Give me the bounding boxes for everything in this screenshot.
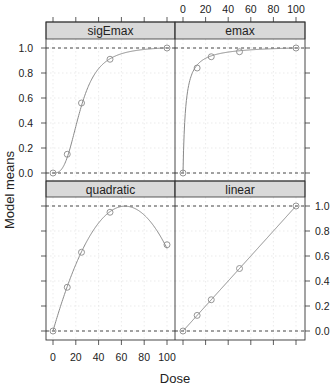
svg-text:0.6: 0.6 xyxy=(315,250,330,262)
svg-text:80: 80 xyxy=(268,3,280,15)
svg-text:0.2: 0.2 xyxy=(18,142,33,154)
panel-title-linear: linear xyxy=(225,183,254,197)
svg-text:20: 20 xyxy=(200,3,212,15)
svg-text:0: 0 xyxy=(50,351,56,363)
svg-text:0: 0 xyxy=(180,3,186,15)
svg-text:1.0: 1.0 xyxy=(315,200,330,212)
right-y-axis-labels: 1.0 0.8 0.6 0.4 0.2 0.0 xyxy=(315,200,330,337)
svg-text:40: 40 xyxy=(93,351,105,363)
x-axis-title: Dose xyxy=(160,371,190,386)
svg-text:0.2: 0.2 xyxy=(315,300,330,312)
bottom-x-axis-labels: 0 20 40 60 80 100 xyxy=(50,351,176,363)
svg-text:1.0: 1.0 xyxy=(18,42,33,54)
svg-text:100: 100 xyxy=(287,3,305,15)
panel-title-quadratic: quadratic xyxy=(86,183,135,197)
svg-text:0.8: 0.8 xyxy=(315,225,330,237)
panel-frames xyxy=(46,22,305,340)
top-x-axis-labels: 0 20 40 60 80 100 xyxy=(180,3,305,15)
svg-text:0.4: 0.4 xyxy=(315,275,330,287)
svg-text:0.8: 0.8 xyxy=(18,67,33,79)
svg-text:60: 60 xyxy=(245,3,257,15)
panel-title-emax: emax xyxy=(225,24,254,38)
svg-text:20: 20 xyxy=(70,351,82,363)
svg-text:0.4: 0.4 xyxy=(18,117,33,129)
svg-text:60: 60 xyxy=(116,351,128,363)
svg-text:0.0: 0.0 xyxy=(18,167,33,179)
svg-text:80: 80 xyxy=(138,351,150,363)
left-y-axis-labels: 1.0 0.8 0.6 0.4 0.2 0.0 xyxy=(18,42,33,179)
svg-text:0.0: 0.0 xyxy=(315,325,330,337)
svg-text:0.6: 0.6 xyxy=(18,92,33,104)
panel-title-sigemax: sigEmax xyxy=(87,24,133,38)
trellis-chart: sigEmax emax quadratic linear 0 20 40 60… xyxy=(0,0,331,387)
y-axis-title: Model means xyxy=(2,150,17,229)
svg-text:40: 40 xyxy=(222,3,234,15)
svg-text:100: 100 xyxy=(158,351,176,363)
